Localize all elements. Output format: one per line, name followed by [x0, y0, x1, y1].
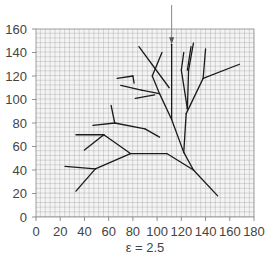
- x-tick-label: 180: [243, 224, 265, 239]
- x-tick-label: 100: [146, 224, 168, 239]
- x-tick-label: 160: [219, 224, 241, 239]
- x-tick-label: 0: [32, 224, 39, 239]
- y-tick-label: 0: [20, 210, 27, 225]
- y-tick-label: 140: [5, 45, 27, 60]
- y-tick-label: 160: [5, 22, 27, 37]
- y-tick-label: 100: [5, 92, 27, 107]
- y-tick-label: 80: [13, 116, 27, 131]
- x-tick-label: 140: [195, 224, 217, 239]
- x-tick-label: 40: [77, 224, 91, 239]
- y-tick-label: 20: [13, 186, 27, 201]
- plot-area: [36, 29, 254, 217]
- x-tick-label: 120: [170, 224, 192, 239]
- x-tick-label: 80: [126, 224, 140, 239]
- x-tick-label: 60: [101, 224, 115, 239]
- arrow-indicator: [169, 5, 174, 44]
- y-axis: 020406080100120140160: [5, 22, 36, 225]
- x-axis: 020406080100120140160180: [32, 217, 264, 239]
- y-tick-label: 40: [13, 163, 27, 178]
- chart-caption: ε = 2.5: [126, 240, 165, 255]
- y-tick-label: 120: [5, 69, 27, 84]
- tree-branch-chart: 020406080100120140160180 020406080100120…: [0, 0, 271, 264]
- y-tick-label: 60: [13, 139, 27, 154]
- x-tick-label: 20: [53, 224, 67, 239]
